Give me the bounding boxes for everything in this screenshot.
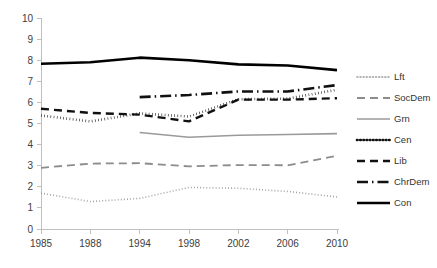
y-tick-label: 5 [27, 118, 33, 129]
chart-canvas: 012345678910 198519881994199820022006201… [0, 0, 437, 268]
y-tick-label: 0 [27, 224, 33, 235]
legend-label-grn[interactable]: Grn [394, 113, 410, 124]
series-layer [41, 58, 337, 202]
legend-label-chrdem[interactable]: ChrDem [394, 176, 429, 187]
y-tick-label: 2 [27, 181, 33, 192]
x-tick-label: 1985 [30, 238, 53, 249]
series-line-con [41, 58, 337, 70]
legend-label-lft[interactable]: Lft [394, 71, 405, 82]
series-line-lft [41, 187, 337, 201]
x-tick-label: 2006 [277, 238, 300, 249]
series-line-lib [41, 98, 337, 121]
x-tick-label: 1994 [129, 238, 152, 249]
plot-area: 012345678910 198519881994199820022006201… [22, 13, 349, 250]
y-tick-label: 9 [27, 34, 33, 45]
y-axis: 012345678910 [22, 13, 41, 235]
legend-label-socdem[interactable]: SocDem [394, 92, 431, 103]
line-chart: 012345678910 198519881994199820022006201… [0, 0, 437, 268]
y-tick-label: 1 [27, 202, 33, 213]
y-tick-label: 10 [22, 13, 34, 24]
y-tick-label: 8 [27, 55, 33, 66]
x-tick-label: 2002 [227, 238, 250, 249]
y-tick-label: 4 [27, 139, 33, 150]
x-tick-label: 1988 [79, 238, 102, 249]
y-tick-label: 6 [27, 97, 33, 108]
legend: LftSocDemGrnCenLibChrDemCon [357, 71, 431, 208]
legend-label-cen[interactable]: Cen [394, 134, 411, 145]
y-tick-label: 7 [27, 76, 33, 87]
series-line-socdem [41, 156, 337, 168]
x-axis: 1985198819941998200220062010 [30, 229, 349, 249]
x-tick-label: 2010 [326, 238, 349, 249]
legend-label-con[interactable]: Con [394, 197, 411, 208]
series-line-chrdem [140, 85, 337, 97]
y-tick-label: 3 [27, 160, 33, 171]
x-tick-label: 1998 [178, 238, 201, 249]
legend-label-lib[interactable]: Lib [394, 155, 407, 166]
series-line-grn [140, 133, 337, 138]
